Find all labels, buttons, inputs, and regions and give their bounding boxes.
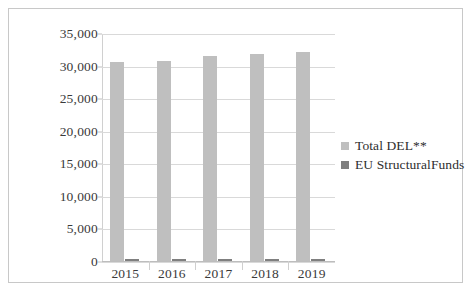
chart-legend: Total DEL**EU StructuralFunds: [341, 137, 464, 175]
y-tick-label: 20,000: [14, 124, 98, 140]
bar-group: [102, 34, 149, 261]
bar-group: [195, 34, 242, 261]
bar-group: [149, 34, 196, 261]
bar-total-del[interactable]: [157, 61, 171, 261]
legend-label: Total DEL**: [355, 138, 427, 154]
bar-total-del[interactable]: [296, 52, 310, 261]
x-tick-label: 2016: [149, 266, 196, 282]
y-tick-label: 35,000: [14, 26, 98, 42]
legend-item[interactable]: Total DEL**: [341, 137, 464, 154]
bar-eu-structural-funds[interactable]: [311, 259, 325, 261]
bar-group: [242, 34, 289, 261]
bar-eu-structural-funds[interactable]: [218, 259, 232, 261]
legend-swatch-icon: [341, 142, 349, 150]
y-tick-label: 5,000: [14, 221, 98, 237]
chart-figure: 05,00010,00015,00020,00025,00030,00035,0…: [8, 8, 463, 283]
bar-group: [288, 34, 335, 261]
bar-total-del[interactable]: [250, 54, 264, 261]
y-tick-label: 25,000: [14, 91, 98, 107]
bar-eu-structural-funds[interactable]: [125, 259, 139, 261]
x-tick-label: 2015: [102, 266, 149, 282]
y-tick-label: 10,000: [14, 189, 98, 205]
y-tick-label: 30,000: [14, 59, 98, 75]
y-tick-label: 0: [14, 254, 98, 270]
x-tick-label: 2018: [242, 266, 289, 282]
y-axis-labels: 05,00010,00015,00020,00025,00030,00035,0…: [9, 34, 98, 262]
plot-area: [102, 34, 335, 262]
legend-swatch-icon: [341, 161, 349, 169]
x-tick-label: 2019: [288, 266, 335, 282]
legend-item[interactable]: EU StructuralFunds: [341, 156, 464, 173]
bar-eu-structural-funds[interactable]: [265, 259, 279, 261]
bar-total-del[interactable]: [203, 56, 217, 261]
bar-eu-structural-funds[interactable]: [172, 259, 186, 261]
bar-total-del[interactable]: [110, 62, 124, 261]
legend-label: EU StructuralFunds: [355, 157, 464, 173]
x-axis-labels: 20152016201720182019: [102, 266, 335, 286]
x-tick-label: 2017: [195, 266, 242, 282]
y-tick-label: 15,000: [14, 156, 98, 172]
gridline: [102, 262, 335, 263]
